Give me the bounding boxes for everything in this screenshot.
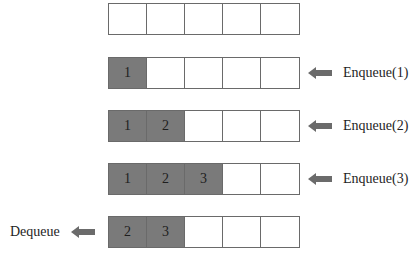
queue-cell bbox=[185, 58, 223, 88]
queue-cell bbox=[185, 217, 223, 247]
queue-cell bbox=[261, 111, 299, 141]
dequeue-operation: Dequeue bbox=[10, 224, 95, 240]
operation-label: Enqueue(1) bbox=[343, 65, 408, 81]
queue-row-enqueue-2: 1 2 bbox=[108, 110, 300, 142]
queue-cell bbox=[223, 111, 261, 141]
queue-cell bbox=[147, 58, 185, 88]
queue-cell bbox=[185, 4, 223, 34]
enqueue-2-operation: Enqueue(2) bbox=[308, 118, 408, 134]
queue-cell: 1 bbox=[109, 111, 147, 141]
queue-cell bbox=[223, 58, 261, 88]
queue-cell bbox=[223, 217, 261, 247]
operation-label: Enqueue(2) bbox=[343, 118, 408, 134]
queue-cell: 3 bbox=[147, 217, 185, 247]
queue-cell bbox=[261, 217, 299, 247]
queue-cell: 2 bbox=[147, 164, 185, 194]
queue-cell: 1 bbox=[109, 58, 147, 88]
arrow-left-icon bbox=[308, 173, 332, 185]
arrow-left-icon bbox=[308, 67, 332, 79]
queue-cell: 2 bbox=[109, 217, 147, 247]
queue-cell bbox=[261, 164, 299, 194]
queue-cell bbox=[261, 4, 299, 34]
queue-cell bbox=[185, 111, 223, 141]
enqueue-3-operation: Enqueue(3) bbox=[308, 171, 408, 187]
queue-cell: 3 bbox=[185, 164, 223, 194]
queue-cell bbox=[223, 4, 261, 34]
queue-row-enqueue-3: 1 2 3 bbox=[108, 163, 300, 195]
queue-cell: 1 bbox=[109, 164, 147, 194]
operation-label: Enqueue(3) bbox=[343, 171, 408, 187]
queue-row-empty bbox=[108, 3, 300, 35]
queue-cell bbox=[147, 4, 185, 34]
arrow-left-icon bbox=[308, 120, 332, 132]
queue-cell bbox=[261, 58, 299, 88]
enqueue-1-operation: Enqueue(1) bbox=[308, 65, 408, 81]
operation-label: Dequeue bbox=[10, 224, 60, 240]
queue-cell bbox=[109, 4, 147, 34]
arrow-left-icon bbox=[71, 226, 95, 238]
queue-cell: 2 bbox=[147, 111, 185, 141]
queue-cell bbox=[223, 164, 261, 194]
queue-row-dequeue: 2 3 bbox=[108, 216, 300, 248]
queue-row-enqueue-1: 1 bbox=[108, 57, 300, 89]
